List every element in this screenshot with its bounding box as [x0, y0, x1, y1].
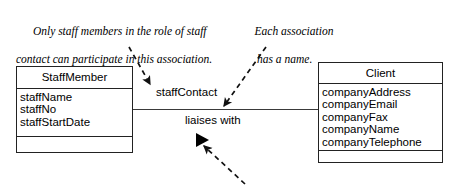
class-attribute: companyName — [322, 123, 442, 135]
class-name-staffmember: StaffMember — [17, 67, 132, 89]
class-attribute: companyFax — [322, 111, 442, 123]
class-attribute: companyEmail — [322, 98, 442, 110]
class-operations-client — [319, 151, 442, 162]
pointer-arrow-to-direction-triangle — [204, 146, 245, 184]
association-role-label: staffContact — [156, 86, 217, 98]
association-direction-triangle-icon — [196, 133, 209, 147]
class-attribute: staffName — [20, 91, 132, 103]
class-attributes-client: companyAddress companyEmail companyFax c… — [319, 84, 442, 151]
association-line — [133, 109, 318, 110]
class-attribute: staffNo — [20, 103, 132, 115]
class-attribute: companyTelephone — [322, 136, 442, 148]
class-attribute: companyAddress — [322, 86, 442, 98]
annotation-staff-role-line1: Only staff members in the role of staff — [33, 25, 207, 37]
class-box-staffmember[interactable]: StaffMember staffName staffNo staffStart… — [16, 66, 133, 153]
class-attribute: staffStartDate — [20, 116, 132, 128]
class-attributes-staffmember: staffName staffNo staffStartDate — [17, 89, 132, 137]
uml-diagram-canvas: Only staff members in the role of staff … — [0, 0, 458, 185]
class-operations-staffmember — [17, 137, 132, 152]
class-name-client: Client — [319, 63, 442, 84]
association-name-label: liaises with — [185, 114, 241, 126]
annotation-staff-role-line2: contact can participate in this associat… — [16, 52, 212, 66]
class-box-client[interactable]: Client companyAddress companyEmail compa… — [318, 62, 443, 163]
annotation-assoc-name-line1: Each association — [255, 25, 334, 37]
